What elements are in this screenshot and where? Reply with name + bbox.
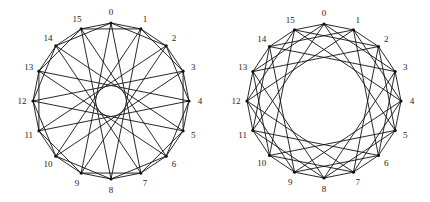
vertex-12: [31, 99, 34, 102]
edge-8-9: [81, 173, 111, 179]
vertex-13: [37, 70, 40, 73]
vertex-7: [352, 171, 355, 174]
vertex-label-6: 6: [384, 158, 389, 168]
circulant-graphs-figure: 0123456789101112131415 01234567891011121…: [0, 0, 430, 202]
edge-3-4: [183, 71, 189, 101]
vertex-14: [268, 45, 271, 48]
vertex-4: [187, 99, 190, 102]
vertex-14: [54, 44, 57, 47]
vertex-label-4: 4: [410, 96, 415, 106]
vertex-label-4: 4: [198, 96, 203, 106]
vertex-label-8: 8: [322, 184, 327, 194]
vertex-5: [394, 129, 397, 132]
vertex-label-3: 3: [403, 62, 408, 72]
vertex-label-6: 6: [172, 159, 177, 169]
vertex-label-10: 10: [257, 158, 267, 168]
vertex-6: [377, 154, 380, 157]
vertex-1: [139, 27, 142, 30]
vertex-label-1: 1: [355, 15, 360, 25]
vertex-8: [109, 177, 112, 180]
edge-11-12: [33, 101, 39, 131]
vertex-2: [377, 45, 380, 48]
vertex-3: [394, 70, 397, 73]
vertex-label-2: 2: [384, 34, 389, 44]
vertex-label-7: 7: [355, 177, 360, 187]
vertex-label-12: 12: [18, 96, 27, 106]
vertex-8: [322, 176, 325, 179]
vertex-label-15: 15: [72, 14, 82, 24]
vertex-label-2: 2: [172, 33, 177, 43]
right-circulant-graph: 0123456789101112131415: [232, 8, 415, 194]
vertex-label-5: 5: [403, 130, 408, 140]
edge-5-7: [141, 131, 183, 173]
vertex-label-10: 10: [44, 159, 54, 169]
vertex-15: [80, 27, 83, 30]
left-circulant-graph: 0123456789101112131415: [18, 7, 203, 195]
vertex-6: [165, 155, 168, 158]
vertex-2: [165, 44, 168, 47]
vertex-label-13: 13: [24, 62, 34, 72]
vertex-13: [251, 70, 254, 73]
vertex-4: [399, 99, 402, 102]
vertex-10: [268, 154, 271, 157]
vertex-label-9: 9: [288, 177, 293, 187]
vertex-label-9: 9: [75, 178, 80, 188]
vertex-label-11: 11: [238, 130, 247, 140]
vertex-15: [293, 28, 296, 31]
vertex-7: [139, 171, 142, 174]
vertex-label-14: 14: [44, 33, 54, 43]
vertex-0: [322, 22, 325, 25]
vertex-label-3: 3: [191, 62, 196, 72]
vertex-0: [109, 21, 112, 24]
vertex-label-7: 7: [143, 178, 148, 188]
vertex-label-11: 11: [24, 130, 33, 140]
edge-12-13: [33, 71, 39, 101]
vertex-10: [54, 155, 57, 158]
vertex-5: [181, 129, 184, 132]
edge-4-5: [183, 101, 189, 131]
vertex-label-15: 15: [286, 15, 296, 25]
vertex-11: [37, 129, 40, 132]
vertex-3: [181, 70, 184, 73]
edge-0-1: [111, 23, 141, 29]
edge-1-3: [141, 29, 183, 71]
vertex-label-14: 14: [257, 34, 267, 44]
vertex-label-5: 5: [191, 130, 196, 140]
vertex-12: [245, 99, 248, 102]
vertex-label-8: 8: [109, 185, 114, 195]
vertex-1: [352, 28, 355, 31]
vertex-9: [293, 171, 296, 174]
vertex-label-1: 1: [143, 14, 148, 24]
vertex-9: [80, 171, 83, 174]
vertex-label-0: 0: [322, 8, 327, 18]
edge-7-8: [111, 173, 141, 179]
vertex-label-12: 12: [232, 96, 241, 106]
vertex-label-0: 0: [109, 7, 114, 17]
vertex-11: [251, 129, 254, 132]
vertex-label-13: 13: [238, 62, 248, 72]
edge-0-15: [81, 23, 111, 29]
